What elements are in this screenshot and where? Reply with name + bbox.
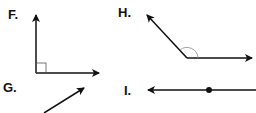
figure-g-ray-line <box>44 88 84 113</box>
right-angle-marker-icon <box>36 63 46 73</box>
figure-i-ray-with-point <box>148 87 256 93</box>
figure-h-obtuse-angle <box>147 15 252 58</box>
figure-f-right-angle <box>36 15 99 73</box>
geometry-figures <box>0 0 256 113</box>
point-dot-icon <box>206 87 212 93</box>
figure-h-upper-ray <box>147 15 187 58</box>
figure-g-ray <box>44 88 84 113</box>
